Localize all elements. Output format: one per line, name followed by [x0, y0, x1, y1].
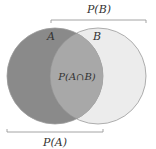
bracket-p-a: [7, 129, 103, 132]
venn-diagram: P(B) P(A) A B P(A∩B): [0, 0, 156, 149]
bracket-p-b: [51, 20, 146, 23]
intersection-label: P(A∩B): [57, 71, 96, 82]
set-b-label: B: [92, 30, 101, 43]
set-a-label: A: [46, 30, 55, 43]
bracket-p-a-label: P(A): [42, 136, 67, 149]
bracket-p-b-label: P(B): [86, 3, 111, 16]
